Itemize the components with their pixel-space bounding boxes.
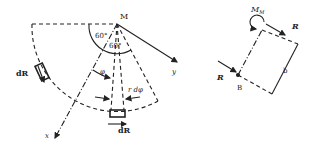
- dR-bottom-label: dR: [118, 125, 131, 135]
- right-figure: [218, 15, 298, 94]
- point-M-label: M: [120, 12, 128, 21]
- moment-label: MM: [250, 5, 265, 15]
- rdphi-arrow-right: [126, 97, 140, 99]
- rdphi-label: r dφ: [128, 86, 143, 94]
- dR-left-label: dR: [16, 68, 29, 78]
- diagram-canvas: M 60° 60° φ r dφ dR dR x y MM R R B b: [0, 0, 320, 148]
- R-top-arrow: [266, 24, 285, 35]
- moment-arrow: [250, 15, 264, 29]
- angle-label-1: 60°: [95, 32, 107, 40]
- dash-dot-line: [238, 30, 262, 75]
- b-dimension-label: b: [283, 67, 288, 75]
- B-label: B: [237, 84, 242, 92]
- y-axis: [117, 24, 177, 62]
- x-axis: [55, 24, 117, 138]
- bottom-edge: [238, 75, 272, 94]
- y-axis-label: y: [171, 68, 177, 76]
- R-left-arrow: [218, 61, 236, 72]
- rdphi-arrow-left: [95, 97, 109, 99]
- R-top-label: R: [291, 21, 299, 31]
- left-figure: [32, 24, 177, 138]
- R-left-label: R: [216, 72, 224, 82]
- radius-mid2: [117, 24, 124, 110]
- x-axis-label: x: [45, 132, 49, 140]
- point-B: [237, 74, 240, 77]
- radius-mid: [111, 24, 117, 110]
- phi-label: φ: [100, 68, 105, 76]
- angle-label-2: 60°: [109, 42, 121, 50]
